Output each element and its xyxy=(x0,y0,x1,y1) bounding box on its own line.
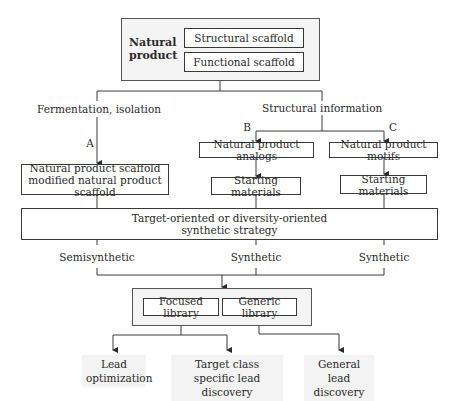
outcome-1-line1: Lead xyxy=(86,357,142,371)
structural-scaffold-box: Structural scaffold xyxy=(184,28,304,48)
path-a-label: A xyxy=(85,137,95,150)
strategy-line2: synthetic strategy xyxy=(181,224,277,236)
focused-library-box: Focused library xyxy=(143,298,219,316)
lead-optimization-outcome: Lead optimization xyxy=(82,355,146,387)
outcome-1-line2: optimization xyxy=(86,371,142,385)
synthetic-strategy-box: Target-oriented or diversity-oriented sy… xyxy=(21,208,438,240)
scaffold-line1: Natural product scaffold xyxy=(30,162,161,174)
semisynthetic-label: Semisynthetic xyxy=(57,251,137,264)
natural-product-scaffold-box: Natural product scaffold modified natura… xyxy=(21,164,169,195)
natural-product-analogs-box: Natural product analogs xyxy=(199,142,314,158)
path-b-label: B xyxy=(242,121,252,134)
starting-materials-b-box: Starting materials xyxy=(211,177,301,195)
synthetic-right-label: Synthetic xyxy=(344,251,424,264)
natural-product-title-line2: product xyxy=(129,49,177,62)
strategy-line1: Target-oriented or diversity-oriented xyxy=(132,212,328,224)
outcome-3-line1: General lead xyxy=(308,357,370,385)
scaffold-line2: modified natural product scaffold xyxy=(22,174,168,198)
functional-scaffold-box: Functional scaffold xyxy=(184,52,304,72)
path-c-label: C xyxy=(388,121,398,134)
structural-information-label: Structural information xyxy=(262,102,382,115)
generic-library-box: Generic library xyxy=(222,298,297,316)
natural-product-motifs-box: Natural product motifs xyxy=(329,142,438,158)
general-lead-outcome: General lead discovery xyxy=(304,355,374,401)
fermentation-isolation-label: Fermentation, isolation xyxy=(37,103,157,116)
target-class-outcome: Target class specific lead discovery xyxy=(171,355,283,401)
synthetic-center-label: Synthetic xyxy=(216,251,296,264)
outcome-3-line2: discovery xyxy=(308,385,370,399)
outcome-2-line2: specific lead discovery xyxy=(175,371,279,399)
natural-product-title-line1: Natural xyxy=(129,36,177,49)
outcome-2-line1: Target class xyxy=(175,357,279,371)
starting-materials-c-box: Starting materials xyxy=(340,175,427,194)
natural-product-title: Natural product xyxy=(129,36,177,62)
